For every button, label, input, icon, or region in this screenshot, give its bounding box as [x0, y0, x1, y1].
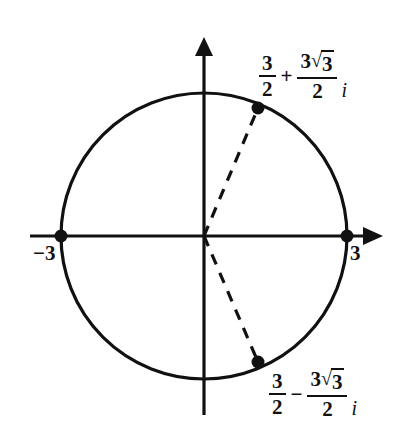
point-label-lower-root: 3 2 − 3 √ 3 2 i: [268, 368, 357, 420]
operator-plus: +: [277, 66, 297, 87]
point-label-upper-root: 3 2 + 3 √ 3 2 i: [258, 50, 347, 102]
point-marker-negative-three: [55, 230, 68, 243]
operator-minus: −: [287, 384, 307, 405]
numerator: 3: [259, 52, 276, 78]
axis-label-positive-three: 3: [350, 243, 361, 264]
denominator: 2: [269, 395, 286, 419]
complex-plane-figure: −3 3 3 2 + 3 √ 3 2 i 3 2 −: [0, 0, 397, 434]
imaginary-unit: i: [338, 80, 347, 102]
denominator: 2: [309, 79, 326, 103]
radical-coefficient: 3: [300, 50, 311, 73]
point-marker-lower-root: [252, 356, 265, 369]
fraction-real-part-lower: 3 2: [269, 370, 286, 419]
radicand: 3: [331, 368, 345, 394]
fraction-imag-part-lower: 3 √ 3 2: [307, 368, 347, 420]
denominator: 2: [259, 77, 276, 101]
numerator: 3 √ 3: [307, 368, 347, 397]
arrow-right-icon: [363, 227, 383, 245]
radius-to-lower-root: [204, 236, 258, 362]
radical-expression: 3 √ 3: [300, 50, 334, 76]
imaginary-unit: i: [348, 398, 357, 420]
denominator: 2: [319, 397, 336, 421]
radicand: 3: [321, 50, 335, 76]
numerator: 3 √ 3: [297, 50, 337, 79]
radical-coefficient: 3: [310, 368, 321, 391]
axis-label-negative-three: −3: [33, 243, 55, 264]
fraction-imag-part-upper: 3 √ 3 2: [297, 50, 337, 102]
radical-expression: 3 √ 3: [310, 368, 344, 394]
arrow-up-icon: [195, 37, 213, 56]
point-marker-upper-root: [252, 102, 265, 115]
fraction-real-part-upper: 3 2: [259, 52, 276, 101]
radius-to-upper-root: [204, 108, 258, 236]
numerator: 3: [269, 370, 286, 396]
